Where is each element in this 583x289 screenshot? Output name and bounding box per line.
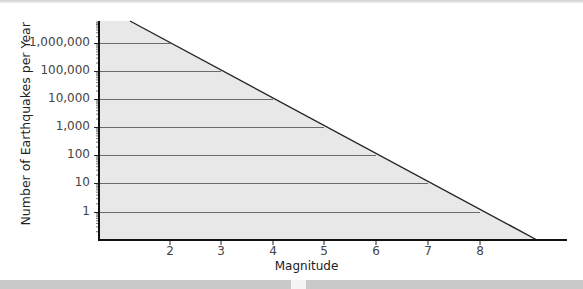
y-axis-title: Number of Earthquakes per Year (18, 26, 33, 226)
y-tick-label: 10 (0, 175, 90, 189)
x-tick-label: 3 (211, 244, 231, 258)
y-tick-label: 100,000 (0, 63, 90, 77)
y-tick-label: 100 (0, 147, 90, 161)
y-tick-label: 1,000 (0, 119, 90, 133)
x-tick-label: 2 (160, 244, 180, 258)
bottom-notch (291, 280, 306, 289)
x-tick-label: 5 (314, 244, 334, 258)
x-tick-label: 8 (470, 244, 490, 258)
area-fill (99, 21, 537, 240)
x-axis-title: Magnitude (0, 259, 583, 273)
y-tick-label: 10,000 (0, 91, 90, 105)
x-tick-label: 7 (418, 244, 438, 258)
x-tick-label: 4 (263, 244, 283, 258)
x-tick-label: 6 (366, 244, 386, 258)
y-tick-label: 1 (0, 204, 90, 218)
bottom-border (0, 280, 583, 289)
y-tick-label: 1,000,000 (0, 35, 90, 49)
